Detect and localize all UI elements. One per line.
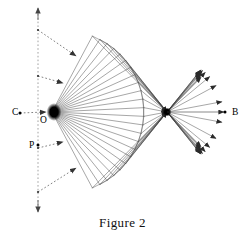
incident-origin-dot bbox=[37, 75, 39, 77]
reflected-ray bbox=[100, 39, 167, 112]
incident-ray bbox=[52, 112, 126, 164]
reflected-ray bbox=[92, 112, 167, 188]
ray-web-group bbox=[52, 36, 167, 188]
point-dot-c bbox=[19, 112, 22, 115]
outgoing-ray bbox=[167, 112, 210, 147]
incident-ray bbox=[52, 112, 107, 180]
figure-caption: Figure 2 bbox=[0, 215, 245, 231]
point-dot-o bbox=[51, 111, 54, 114]
incident-origin-dot bbox=[37, 147, 39, 149]
incident-origin-dot bbox=[37, 191, 39, 193]
ray-reflection-diagram: COPB bbox=[0, 0, 245, 242]
incident-ray bbox=[52, 112, 114, 176]
incident-ray bbox=[52, 112, 139, 142]
point-label-p: P bbox=[29, 140, 34, 150]
incident-ray bbox=[52, 82, 139, 112]
incident-ray bbox=[52, 54, 120, 112]
outgoing-ray bbox=[167, 86, 216, 112]
incident-ray bbox=[52, 44, 107, 112]
left-focus-blob bbox=[47, 103, 62, 121]
reflected-ray bbox=[100, 112, 167, 185]
incident-ray bbox=[52, 48, 114, 112]
point-label-b: B bbox=[232, 107, 238, 117]
reflected-ray bbox=[131, 67, 167, 112]
point-labels-group: COPB bbox=[12, 107, 238, 150]
reflected-ray bbox=[107, 112, 167, 180]
incident-dotted-arrow bbox=[38, 142, 63, 148]
outgoing-ray bbox=[167, 77, 210, 112]
incident-origin-dot bbox=[37, 29, 39, 31]
reflected-ray bbox=[141, 91, 167, 112]
incident-dotted-arrow bbox=[38, 168, 76, 192]
reflected-ray bbox=[114, 112, 167, 176]
reflected-ray bbox=[135, 75, 167, 112]
outgoing-ray bbox=[167, 112, 216, 138]
incident-ray bbox=[52, 60, 126, 112]
figure-container: COPB Figure 2 bbox=[0, 0, 245, 242]
foci-group bbox=[47, 103, 172, 121]
envelope-chord bbox=[92, 180, 107, 187]
point-dot-p bbox=[37, 144, 40, 147]
incident-dotted-arrow bbox=[38, 30, 76, 56]
incident-ray bbox=[52, 112, 120, 170]
incident-dotted-arrow bbox=[38, 76, 63, 83]
incident-dotted-arrow bbox=[20, 112, 46, 113]
point-label-o: O bbox=[40, 115, 47, 125]
reflected-ray bbox=[141, 112, 167, 133]
point-dot-b bbox=[224, 111, 227, 114]
point-label-c: C bbox=[12, 107, 18, 117]
outgoing-ray bbox=[167, 112, 203, 154]
